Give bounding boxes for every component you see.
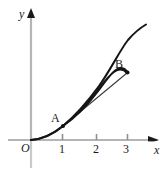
point-label-b: B	[115, 58, 123, 70]
function-curve-main	[31, 25, 146, 141]
function-curve	[31, 68, 128, 140]
point-label-a: A	[51, 112, 60, 124]
origin-label: O	[21, 142, 30, 154]
point-marker-b	[126, 71, 130, 75]
x-tick-label-2: 2	[93, 143, 99, 155]
x-axis-label: x	[154, 144, 159, 156]
point-marker-a	[61, 124, 65, 128]
y-axis-label: y	[19, 8, 24, 20]
figure-container: y x O 1 2 3 A B	[0, 0, 166, 174]
y-axis-arrow-icon	[27, 8, 35, 18]
x-tick-label-3: 3	[123, 143, 129, 155]
x-tick-label-1: 1	[59, 143, 65, 155]
